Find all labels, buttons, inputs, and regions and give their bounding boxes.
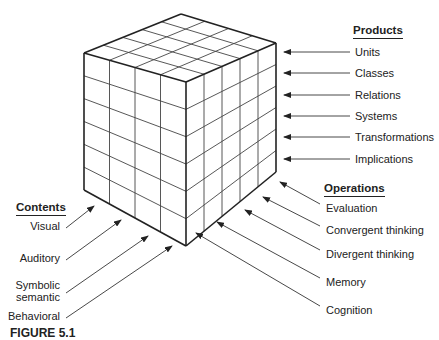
figure-label: FIGURE 5.1 [10, 326, 75, 340]
content-arrow [66, 236, 148, 293]
product-label-implications: Implications [355, 153, 413, 165]
operation-arrow [263, 197, 320, 226]
content-label-behavioral: Behavioral [0, 310, 60, 322]
content-label-visual: Visual [0, 220, 60, 232]
operation-label-cognition: Cognition [326, 304, 372, 316]
operation-arrow [217, 222, 320, 278]
content-arrow [66, 220, 121, 260]
operations-header: Operations [324, 182, 385, 197]
figure-caption: FIGURE 5.1 [10, 326, 75, 340]
operation-label-memory: Memory [326, 276, 366, 288]
operation-label-divergent-thinking: Divergent thinking [326, 248, 414, 260]
products-header: Products [353, 24, 403, 39]
content-label-symbolic-semantic: semantic [0, 291, 60, 303]
content-label-symbolic-semantic: Symbolic [0, 279, 60, 291]
product-label-relations: Relations [355, 89, 401, 101]
operation-label-convergent-thinking: Convergent thinking [326, 224, 424, 236]
product-label-classes: Classes [355, 67, 394, 79]
operation-label-evaluation: Evaluation [326, 202, 377, 214]
contents-header: Contents [16, 201, 66, 216]
product-label-units: Units [355, 46, 380, 58]
product-label-systems: Systems [355, 110, 397, 122]
content-label-auditory: Auditory [0, 252, 60, 264]
content-arrow [66, 206, 94, 228]
operation-arrow [245, 210, 320, 250]
operation-arrow [280, 182, 320, 204]
product-label-transformations: Transformations [355, 131, 434, 143]
